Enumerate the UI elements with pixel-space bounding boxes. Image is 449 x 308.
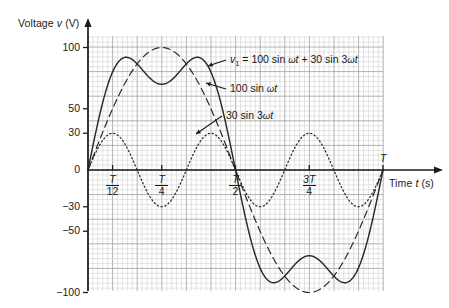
- fundamental-label: 100 sin ωt: [230, 82, 277, 94]
- y-tick-label: 100: [62, 41, 80, 53]
- y-axis-title-prefix: Voltage: [18, 17, 57, 29]
- x-tick-denominator: 4: [149, 186, 175, 197]
- x-tick-numerator: 3T: [296, 174, 322, 185]
- y-tick-label: 30: [68, 126, 80, 138]
- grid: [88, 36, 383, 291]
- y-tick-label: 0: [74, 163, 80, 175]
- period-label: T: [380, 152, 387, 164]
- composite-label: v1 = 100 sin ωt + 30 sin 3ωt: [230, 53, 358, 68]
- x-tick-denominator: 12: [100, 186, 126, 197]
- x-tick-label: T12: [100, 174, 126, 196]
- y-axis-title: Voltage v (V): [18, 17, 79, 29]
- y-axis-title-unit: (V): [62, 17, 79, 29]
- x-tick-label: T2: [223, 174, 249, 196]
- x-tick-label: 3T4: [296, 174, 322, 196]
- y-tick-label: −50: [62, 224, 80, 236]
- x-tick-label: T4: [149, 174, 175, 196]
- x-axis-title: Time t (s): [389, 177, 434, 189]
- y-tick-label: −100: [56, 286, 80, 298]
- x-axis-title-prefix: Time: [389, 177, 415, 189]
- harmonic-label: 30 sin 3ωt: [226, 109, 273, 121]
- y-axis-arrow: [84, 18, 91, 27]
- x-axis-arrow: [434, 166, 443, 173]
- x-axis-title-unit: (s): [418, 177, 434, 189]
- chart-figure: Voltage v (V) Time t (s) T 10050300−30−5…: [0, 0, 449, 308]
- x-tick-denominator: 2: [223, 186, 249, 197]
- y-tick-label: 50: [68, 102, 80, 114]
- y-tick-label: −30: [62, 200, 80, 212]
- leader-composite-arrow: [208, 63, 213, 67]
- x-tick-numerator: T: [149, 174, 175, 185]
- x-tick-numerator: T: [223, 174, 249, 185]
- x-tick-denominator: 4: [296, 186, 322, 197]
- x-tick-numerator: T: [100, 174, 126, 185]
- leader-harmonic-arrow: [196, 130, 201, 134]
